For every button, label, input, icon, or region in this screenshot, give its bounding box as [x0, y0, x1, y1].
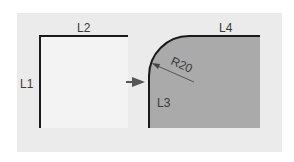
- label-l2: L2: [77, 21, 91, 35]
- fillet-diagram: L1 L2 R20 L3 L4: [0, 0, 294, 162]
- label-l1: L1: [20, 77, 34, 91]
- label-l3: L3: [157, 96, 171, 110]
- label-l4: L4: [219, 21, 233, 35]
- left-square-fill: [40, 36, 128, 128]
- right-filleted-fill: [149, 36, 260, 128]
